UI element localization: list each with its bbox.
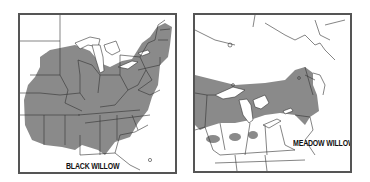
meadow-willow-map: MEADOW WILLOW	[193, 13, 352, 173]
black-willow-range-map	[20, 15, 175, 172]
black-willow-map: BLACK WILLOW	[18, 13, 177, 174]
meadow-willow-label: MEADOW WILLOW	[293, 138, 352, 148]
black-willow-label: BLACK WILLOW	[66, 161, 119, 171]
